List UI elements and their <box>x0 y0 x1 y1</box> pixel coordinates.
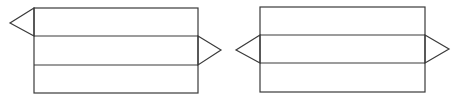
net-a <box>10 8 221 93</box>
prism-nets-diagram <box>0 0 463 100</box>
net-a-triangle-right <box>198 36 221 65</box>
net-b-triangle-left <box>236 35 260 63</box>
net-b-triangle-right <box>425 35 449 63</box>
net-b <box>236 7 449 92</box>
net-a-triangle-left <box>10 8 34 36</box>
net-a-rectangle <box>34 8 198 93</box>
net-b-rectangle <box>260 7 425 92</box>
